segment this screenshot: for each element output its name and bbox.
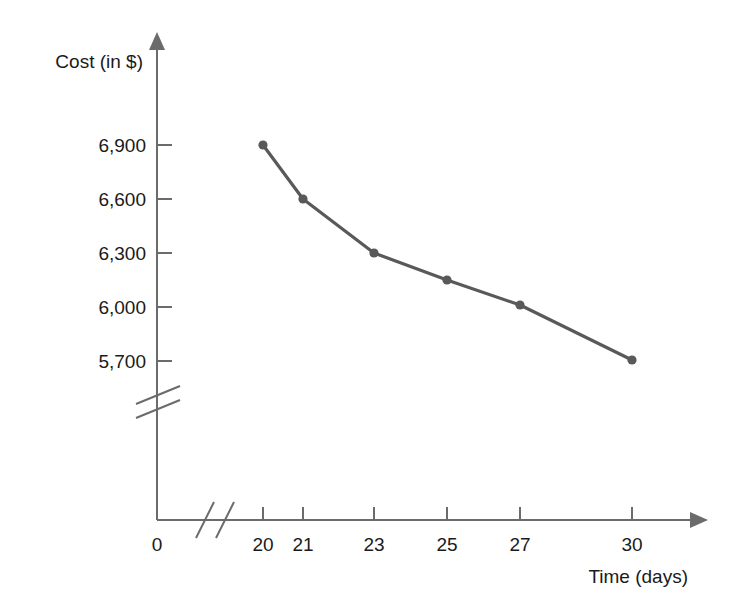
data-series-cost <box>258 140 636 364</box>
y-axis-arrow-icon <box>149 32 165 50</box>
data-point-marker <box>258 140 267 149</box>
x-axis-title: Time (days) <box>588 566 688 587</box>
x-tick-label: 20 <box>252 534 273 555</box>
series-markers <box>258 140 636 364</box>
data-point-marker <box>515 300 524 309</box>
line-chart: 6,900 6,600 6,300 6,000 5,700 0 20 21 23… <box>0 0 742 614</box>
y-tick-label: 6,600 <box>98 189 146 210</box>
x-tick-label: 21 <box>292 534 313 555</box>
x-axis <box>157 502 708 538</box>
y-tick-marks <box>157 145 172 361</box>
x-tick-label: 25 <box>436 534 457 555</box>
data-point-marker <box>442 275 451 284</box>
x-origin-label: 0 <box>152 534 163 555</box>
y-tick-label: 6,900 <box>98 135 146 156</box>
data-point-marker <box>627 355 636 364</box>
series-line <box>263 145 632 360</box>
y-tick-label: 5,700 <box>98 351 146 372</box>
x-tick-label: 30 <box>621 534 642 555</box>
x-tick-label: 27 <box>509 534 530 555</box>
x-tick-labels: 0 20 21 23 25 27 30 <box>152 534 643 555</box>
y-tick-label: 6,300 <box>98 243 146 264</box>
x-axis-arrow-icon <box>690 512 708 528</box>
x-tick-label: 23 <box>363 534 384 555</box>
y-axis <box>136 32 180 520</box>
y-tick-label: 6,000 <box>98 297 146 318</box>
data-point-marker <box>298 194 307 203</box>
y-tick-labels: 6,900 6,600 6,300 6,000 5,700 <box>98 135 146 372</box>
chart-canvas: 6,900 6,600 6,300 6,000 5,700 0 20 21 23… <box>0 0 742 614</box>
y-axis-title: Cost (in $) <box>55 51 143 72</box>
data-point-marker <box>369 248 378 257</box>
